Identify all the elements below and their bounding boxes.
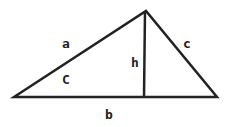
label-side-a: a bbox=[62, 36, 70, 51]
label-angle-C: C bbox=[62, 72, 70, 87]
triangle-diagram: a C h c b bbox=[0, 0, 225, 127]
triangle bbox=[14, 11, 217, 97]
altitude-h bbox=[144, 11, 145, 97]
label-side-b: b bbox=[105, 107, 113, 122]
label-side-c: c bbox=[183, 36, 191, 51]
label-height-h: h bbox=[131, 55, 139, 70]
